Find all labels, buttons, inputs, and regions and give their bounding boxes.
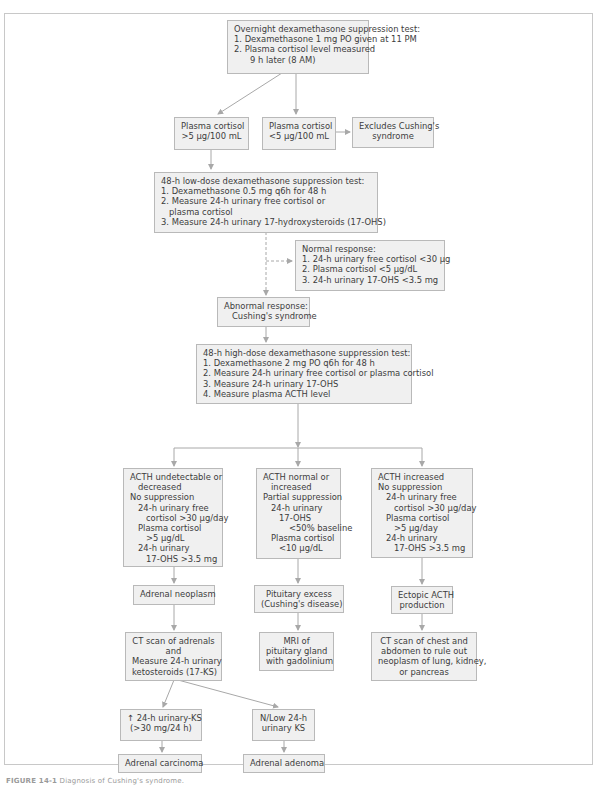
node-pituitary-excess: Pituitary excess (Cushing's disease)	[254, 585, 344, 613]
node-line: ↑ 24-h urinary-KS	[127, 713, 195, 723]
node-line: Measure 24-h urinary	[132, 656, 215, 666]
node-line: Adrenal carcinoma	[125, 758, 195, 768]
node-acth-increased: ACTH increased No suppression 24-h urina…	[371, 468, 473, 558]
node-line: 1. Dexamethasone 1 mg PO given at 11 PM	[234, 34, 362, 44]
node-line: 2. Plasma cortisol level measured	[234, 44, 362, 54]
node-line: 24-h urinary free	[378, 492, 466, 502]
node-line: N/Low 24-h	[259, 713, 308, 723]
node-line: CT scan of adrenals	[132, 636, 215, 646]
node-ks-normal-low: N/Low 24-h urinary KS	[252, 709, 315, 741]
node-line: CT scan of chest and	[378, 636, 470, 646]
node-adrenal-neoplasm: Adrenal neoplasm	[133, 585, 215, 605]
node-line: No suppression	[378, 482, 466, 492]
node-adrenal-adenoma: Adrenal adenoma	[243, 754, 325, 773]
node-line: Plasma cortisol	[181, 121, 242, 131]
node-line: 2. Measure 24-h urinary free cortisol or	[161, 196, 371, 206]
node-line: 1. Dexamethasone 0.5 mg q6h for 48 h	[161, 186, 371, 196]
node-line: MRI of	[266, 636, 327, 646]
node-line: Overnight dexamethasone suppression test…	[234, 24, 362, 34]
node-line: <10 μg/dL	[263, 543, 334, 553]
node-overnight-test: Overnight dexamethasone suppression test…	[227, 20, 369, 74]
figure-caption: FIGURE 14-1 Diagnosis of Cushing's syndr…	[6, 777, 184, 785]
node-line: with gadolinium	[266, 656, 327, 666]
node-line: cortisol >30 μg/day	[378, 503, 466, 513]
node-line: Pituitary excess	[261, 589, 337, 599]
node-ks-elevated: ↑ 24-h urinary-KS (>30 mg/24 h)	[120, 709, 202, 741]
node-line: increased	[263, 482, 334, 492]
node-high-dose-test: 48-h high-dose dexamethasone suppression…	[196, 344, 412, 404]
node-line: plasma cortisol	[161, 207, 371, 217]
node-cortisol-high: Plasma cortisol >5 μg/100 mL	[174, 117, 249, 150]
node-ct-chest: CT scan of chest and abdomen to rule out…	[371, 632, 477, 681]
node-adrenal-carcinoma: Adrenal carcinoma	[118, 754, 202, 773]
node-line: 1. 24-h urinary free cortisol <30 μg	[302, 254, 438, 264]
node-line: ketosteroids (17-KS)	[132, 667, 215, 677]
node-line: Cushing's syndrome	[224, 311, 303, 321]
node-line: pituitary gland	[266, 646, 327, 656]
figure-caption-text: Diagnosis of Cushing's syndrome.	[60, 777, 185, 785]
node-line: syndrome	[359, 131, 427, 141]
node-line: 4. Measure plasma ACTH level	[203, 389, 405, 399]
node-line: 17-OHS >3.5 mg	[378, 543, 466, 553]
node-line: 3. Measure 24-h urinary 17-hydroxysteroi…	[161, 217, 371, 227]
node-ectopic-acth: Ectopic ACTH production	[391, 586, 453, 614]
node-line: No suppression	[130, 492, 216, 502]
node-line: 24-h urinary	[263, 503, 334, 513]
node-line: decreased	[130, 482, 216, 492]
node-cortisol-low: Plasma cortisol <5 μg/100 mL	[262, 117, 336, 150]
node-line: Adrenal adenoma	[250, 758, 318, 768]
node-line: 9 h later (8 AM)	[234, 55, 362, 65]
node-line: Plasma cortisol	[269, 121, 329, 131]
node-line: Adrenal neoplasm	[140, 589, 208, 599]
node-line: 3. 24-h urinary 17-OHS <3.5 mg	[302, 275, 438, 285]
node-acth-undetectable: ACTH undetectable or decreased No suppre…	[123, 468, 223, 567]
node-line: Plasma cortisol	[130, 523, 216, 533]
node-line: and	[132, 646, 215, 656]
node-line: Plasma cortisol	[263, 533, 334, 543]
node-mri-pituitary: MRI of pituitary gland with gadolinium	[259, 632, 334, 671]
node-line: Plasma cortisol	[378, 513, 466, 523]
node-abnormal-response: Abnormal response: Cushing's syndrome	[217, 297, 310, 327]
node-line: 48-h low-dose dexamethasone suppression …	[161, 176, 371, 186]
node-line: ACTH increased	[378, 472, 466, 482]
node-line: neoplasm of lung, kidney,	[378, 656, 470, 666]
node-line: >5 μg/100 mL	[181, 131, 242, 141]
node-line: 17-OHS	[263, 513, 334, 523]
node-line: urinary KS	[259, 723, 308, 733]
node-line: (Cushing's disease)	[261, 599, 337, 609]
node-low-dose-test: 48-h low-dose dexamethasone suppression …	[154, 172, 378, 233]
node-line: or pancreas	[378, 667, 470, 677]
node-line: 3. Measure 24-h urinary 17-OHS	[203, 379, 405, 389]
node-line: (>30 mg/24 h)	[127, 723, 195, 733]
node-excludes-cushings: Excludes Cushing's syndrome	[352, 117, 434, 148]
node-line: ACTH undetectable or	[130, 472, 216, 482]
node-line: 17-OHS >3.5 mg	[130, 554, 216, 564]
node-line: ACTH normal or	[263, 472, 334, 482]
node-line: 24-h urinary	[130, 543, 216, 553]
node-line: Ectopic ACTH	[398, 590, 446, 600]
node-ct-adrenals: CT scan of adrenals and Measure 24-h uri…	[125, 632, 222, 681]
node-acth-normal: ACTH normal or increased Partial suppres…	[256, 468, 341, 559]
node-line: Abnormal response:	[224, 301, 303, 311]
node-normal-response: Normal response: 1. 24-h urinary free co…	[295, 240, 445, 291]
node-line: 1. Dexamethasone 2 mg PO q6h for 48 h	[203, 358, 405, 368]
node-line: production	[398, 600, 446, 610]
node-line: 48-h high-dose dexamethasone suppression…	[203, 348, 405, 358]
node-line: <50% baseline	[263, 523, 334, 533]
node-line: 24-h urinary	[378, 533, 466, 543]
node-line: Excludes Cushing's	[359, 121, 427, 131]
node-line: <5 μg/100 mL	[269, 131, 329, 141]
node-line: >5 μg/day	[378, 523, 466, 533]
node-line: 2. Plasma cortisol <5 μg/dL	[302, 264, 438, 274]
node-line: >5 μg/dL	[130, 533, 216, 543]
node-line: cortisol >30 μg/day	[130, 513, 216, 523]
node-line: abdomen to rule out	[378, 646, 470, 656]
node-line: Normal response:	[302, 244, 438, 254]
node-line: Partial suppression	[263, 492, 334, 502]
node-line: 24-h urinary free	[130, 503, 216, 513]
node-line: 2. Measure 24-h urinary free cortisol or…	[203, 368, 405, 378]
figure-label: FIGURE 14-1	[6, 777, 57, 785]
